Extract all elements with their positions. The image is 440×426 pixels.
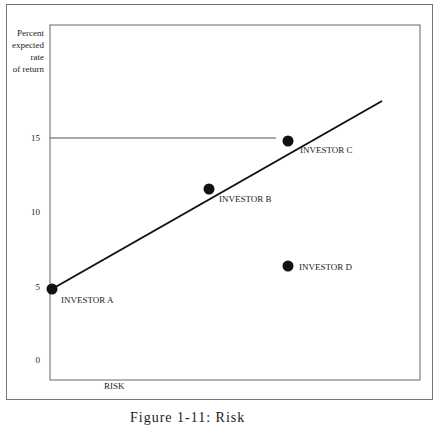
label-investor-a: INVESTOR A — [61, 295, 114, 305]
point-investor-b — [204, 184, 215, 195]
y-tick-15: 15 — [31, 133, 41, 143]
label-investor-d: INVESTOR D — [299, 262, 353, 272]
point-investor-a — [47, 284, 58, 295]
risk-return-line — [52, 101, 382, 289]
x-axis-label: RISK — [104, 381, 125, 391]
label-investor-b: INVESTOR B — [219, 194, 272, 204]
point-investor-c — [283, 136, 294, 147]
point-investor-d — [283, 261, 294, 272]
figure-caption: Figure 1-11: Risk — [130, 410, 245, 426]
y-tick-10: 10 — [31, 207, 41, 217]
label-investor-c: INVESTOR C — [300, 145, 353, 155]
y-tick-0: 0 — [36, 355, 41, 365]
y-tick-5: 5 — [36, 282, 41, 292]
